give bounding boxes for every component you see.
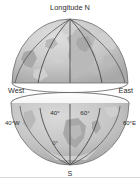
landmass-fleck-a bbox=[52, 57, 64, 63]
label-east: East bbox=[119, 86, 133, 95]
globe-diagram-svg: Longitude N West East 40° 60° 40°W 60°E … bbox=[0, 0, 140, 178]
label-meridian-40-west: 40°W bbox=[5, 120, 20, 126]
label-angle-60-inner: 60° bbox=[80, 109, 90, 116]
title-longitude-north: Longitude N bbox=[50, 3, 90, 12]
upper-hemisphere-dome bbox=[12, 19, 128, 93]
label-west: West bbox=[8, 86, 24, 95]
lower-hemisphere-bowl bbox=[11, 103, 129, 165]
label-meridian-60-east: 60°E bbox=[123, 120, 136, 126]
globe-longitude-figure: Longitude N West East 40° 60° 40°W 60°E … bbox=[0, 0, 140, 178]
label-angle-40-inner: 40° bbox=[50, 109, 60, 116]
dome-base-rim-front bbox=[12, 83, 128, 93]
label-south-pole: S bbox=[68, 169, 73, 178]
label-prime-meridian: 0° bbox=[52, 140, 58, 146]
